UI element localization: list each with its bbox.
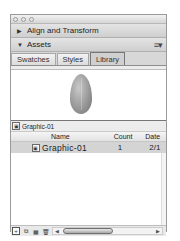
assets-panel: ▶ Align and Transform ▼ Assets ≡▾ Swatch…: [10, 14, 167, 232]
horizontal-scrollbar[interactable]: ◀ ▶: [52, 227, 163, 235]
scroll-left-arrow-icon[interactable]: ◀: [53, 228, 60, 234]
minimize-button[interactable]: [21, 17, 26, 22]
row-count: 1: [110, 143, 146, 152]
triangle-right-icon: ▶: [17, 27, 27, 34]
tab-swatches[interactable]: Swatches: [11, 53, 56, 65]
tab-library[interactable]: Library: [90, 52, 125, 65]
scroll-right-arrow-icon[interactable]: ▶: [154, 228, 161, 234]
column-header-date[interactable]: Date: [145, 133, 166, 140]
tab-styles[interactable]: Styles: [57, 53, 89, 65]
tab-label: Swatches: [17, 55, 50, 64]
row-name: Graphic-01: [42, 143, 87, 153]
properties-icon[interactable]: ▦: [32, 227, 40, 235]
graphic-symbol-icon: ▣: [32, 144, 40, 152]
close-button[interactable]: [13, 17, 18, 22]
column-header-count[interactable]: Count: [110, 133, 146, 140]
library-column-headers: Name Count Date: [11, 132, 166, 142]
library-footer: + ⧉ ▦ 🗑 ◀ ▶: [11, 225, 166, 236]
library-list-area[interactable]: [11, 153, 166, 225]
column-header-name[interactable]: Name: [11, 133, 110, 140]
graphic-symbol-icon: ▣: [12, 122, 20, 130]
section-align-transform[interactable]: ▶ Align and Transform: [11, 24, 166, 38]
selected-item-name: Graphic-01: [22, 123, 54, 130]
section-label: Align and Transform: [27, 26, 99, 35]
selected-item-bar: ▣ Graphic-01: [11, 121, 166, 132]
panel-titlebar: [11, 15, 166, 24]
panel-menu-icon[interactable]: ≡▾: [154, 40, 162, 50]
duplicate-icon[interactable]: ⧉: [22, 227, 30, 235]
library-row[interactable]: ▣ Graphic-01 1 2/1: [11, 142, 166, 153]
new-symbol-icon[interactable]: +: [12, 227, 20, 235]
tab-label: Styles: [63, 55, 83, 64]
triangle-down-icon: ▼: [17, 42, 27, 48]
section-assets[interactable]: ▼ Assets ≡▾: [11, 38, 166, 52]
row-date: 2/1: [145, 143, 166, 152]
graphic-preview-highlight: [81, 78, 82, 110]
section-label: Assets: [27, 40, 51, 49]
trash-icon[interactable]: 🗑: [42, 227, 50, 235]
symbol-preview: [11, 69, 166, 121]
row-name-cell: ▣ Graphic-01: [11, 143, 110, 153]
tab-label: Library: [96, 55, 119, 64]
vertical-scrollbar[interactable]: [161, 153, 166, 225]
asset-tabs: Swatches Styles Library: [11, 52, 166, 66]
zoom-button[interactable]: [29, 17, 34, 22]
scrollbar-thumb[interactable]: [63, 228, 113, 234]
